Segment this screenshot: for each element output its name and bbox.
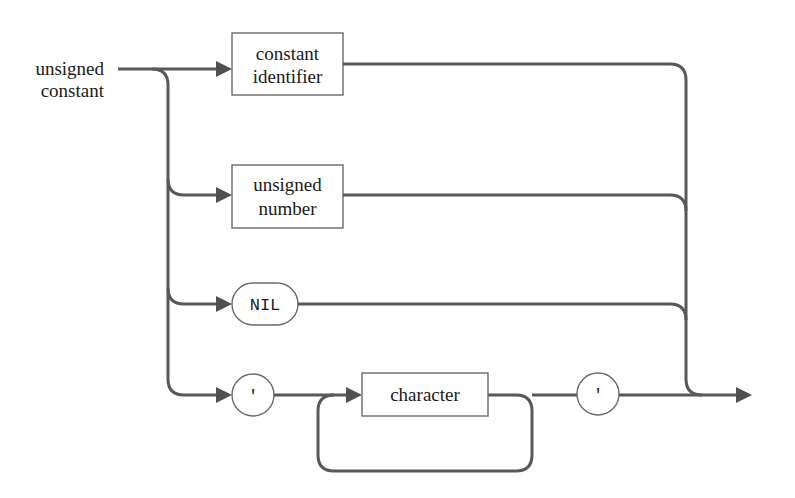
terminal-label: NIL: [250, 296, 281, 315]
exit-arrow-icon: [736, 387, 752, 403]
node-unsigned-number: unsigned number: [232, 165, 343, 228]
node-character: character: [362, 373, 488, 416]
node-label-line-2: identifier: [253, 66, 323, 87]
arrow-icon: [216, 187, 232, 203]
arrow-icon: [216, 387, 232, 403]
terminal-label: ': [593, 386, 603, 405]
arrow-icon: [216, 296, 232, 312]
branch-track-nil: [168, 288, 220, 304]
title-line-2: constant: [41, 80, 105, 101]
merge-track-nil: [298, 304, 686, 320]
merge-track-unsigned-number: [343, 195, 686, 211]
node-close-quote-terminal: ': [577, 373, 619, 415]
node-nil-terminal: NIL: [232, 283, 298, 325]
node-label-line-1: constant: [256, 43, 320, 64]
node-label-line-1: unsigned: [253, 174, 322, 195]
node-open-quote-terminal: ': [232, 374, 274, 416]
branch-track-unsigned-number: [168, 179, 220, 195]
title-line-1: unsigned: [35, 58, 104, 79]
node-label: character: [390, 384, 460, 405]
merge-track-constant-identifier: [343, 64, 702, 395]
arrow-icon: [216, 61, 232, 77]
arrow-icon: [346, 387, 362, 403]
node-constant-identifier: constant identifier: [232, 33, 343, 95]
branch-trunk: [152, 69, 220, 395]
terminal-label: ': [248, 387, 258, 406]
diagram-title: unsigned constant: [35, 58, 104, 101]
node-label-line-2: number: [258, 198, 317, 219]
syntax-diagram-unsigned-constant: unsigned constant constant identifier un…: [0, 0, 795, 498]
